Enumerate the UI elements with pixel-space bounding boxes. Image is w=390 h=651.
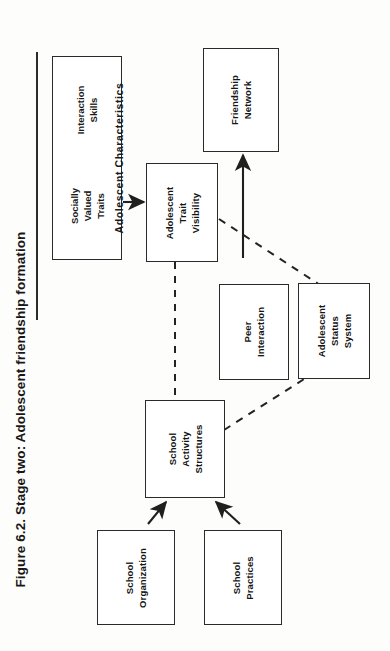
figure-container: Figure 6.2. Stage two: Adolescent friend… [0, 0, 390, 651]
node-adolescent-status-system-label: Adolescent Status System [315, 305, 354, 358]
label-line: Organization [137, 548, 148, 608]
sub-line: Valued [82, 191, 93, 222]
edge-activity-structures-to-status-system [224, 374, 312, 430]
figure-caption-column: Figure 6.2. Stage two: Adolescent friend… [0, 0, 40, 651]
sub-line: Skills [88, 97, 99, 122]
node-adolescent-characteristics[interactable]: Adolescent Characteristics Socially Valu… [52, 56, 122, 260]
edge-school-practices-to-activity-structures [216, 502, 240, 524]
label-line: Network [242, 81, 253, 120]
label-line: School [167, 433, 178, 466]
node-adolescent-trait-visibility-label: Adolescent Trait Visibility [163, 186, 202, 239]
node-adolescent-characteristics-sublabel-traits: Socially Valued Traits [68, 189, 107, 225]
label-line: Friendship [229, 75, 240, 125]
node-adolescent-characteristics-sublabel-skills: Interaction Skills [74, 85, 100, 134]
node-school-practices-label: School Practices [230, 556, 256, 600]
label-line: Peer [242, 321, 253, 342]
node-adolescent-trait-visibility[interactable]: Adolescent Trait Visibility [146, 163, 218, 262]
node-school-practices[interactable]: School Practices [204, 530, 282, 625]
edge-trait-visibility-to-status-system [219, 219, 320, 285]
label-line: Visibility [190, 192, 201, 232]
label-line: Practices [244, 556, 255, 600]
node-peer-interaction[interactable]: Peer Interaction [219, 284, 289, 380]
label-line: Adolescent [164, 186, 175, 239]
sub-line: Socially [69, 189, 80, 225]
node-adolescent-status-system[interactable]: Adolescent Status System [298, 283, 370, 379]
node-adolescent-characteristics-header: Adolescent Characteristics [113, 83, 125, 234]
label-line: Trait [177, 202, 188, 223]
sub-line: Traits [95, 194, 106, 219]
node-school-activity-structures-label: School Activity Structures [166, 424, 205, 473]
node-school-organization-label: School Organization [123, 548, 149, 608]
figure-caption: Figure 6.2. Stage two: Adolescent friend… [13, 28, 28, 588]
sub-line: Interaction [75, 85, 86, 134]
caption-divider-rule [36, 52, 38, 320]
label-line: Adolescent [316, 305, 327, 358]
node-school-organization[interactable]: School Organization [97, 530, 175, 625]
label-line: School [124, 561, 135, 594]
edge-school-organization-to-activity-structures [148, 502, 166, 524]
node-peer-interaction-label: Peer Interaction [241, 307, 267, 357]
label-line: Structures [193, 424, 204, 473]
label-line: Interaction [255, 307, 266, 357]
label-line: Status [329, 316, 340, 346]
label-line: System [342, 314, 353, 349]
label-line: Activity [180, 431, 191, 467]
node-school-activity-structures[interactable]: School Activity Structures [145, 400, 225, 498]
node-friendship-network-label: Friendship Network [228, 75, 254, 125]
node-friendship-network[interactable]: Friendship Network [203, 48, 279, 152]
label-line: School [231, 561, 242, 594]
